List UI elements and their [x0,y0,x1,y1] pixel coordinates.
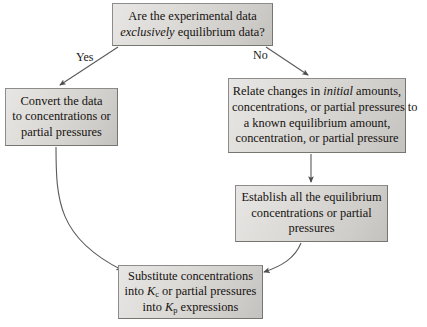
convert-line-1: Convert the data [9,94,114,110]
question-italic-word: exclusively [120,25,174,39]
question-line-1: Are the experimental data [116,9,269,25]
arrow-no-branch [266,47,308,75]
node-convert-box: Convert the data to concentrations or pa… [5,88,118,146]
establish-line-1: Establish all the equilibrium [239,190,384,206]
substitute-line-2: into Kc or partial pressures [122,284,259,300]
node-establish-box: Establish all the equilibrium concentrat… [235,185,388,242]
substitute-line-2-start: into [125,284,147,298]
convert-line-2: to concentrations or [9,109,114,125]
substitute-line-1: Substitute concentrations [122,269,259,285]
arrow-establish-to-substitute [264,243,301,272]
relate-line-1-start: Relate changes in [233,84,324,98]
substitute-line-2-end: or partial pressures [159,284,256,298]
convert-line-3: partial pressures [9,125,114,141]
branch-label-yes: Yes [76,50,93,65]
node-establish-text: Establish all the equilibrium concentrat… [236,190,387,237]
node-substitute-box: Substitute concentrations into Kc or par… [118,265,263,319]
establish-line-2: concentrations or partial [239,206,384,222]
relate-line-1-end: amounts, [353,84,401,98]
question-line-2: exclusively equilibrium data? [116,25,269,41]
flowchart-diagram: Are the experimental data exclusively eq… [0,0,427,327]
relate-line-3: a known equilibrium amount, [232,116,402,132]
kc-symbol: Kc [147,284,159,298]
substitute-line-3-end: expressions [177,300,238,314]
substitute-line-3: into Kp expressions [122,300,259,316]
arrow-convert-to-substitute [56,147,122,270]
relate-line-4: concentration, or partial pressure [232,131,402,147]
establish-line-3: pressures [239,221,384,237]
relate-line-1: Relate changes in initial amounts, [232,84,402,100]
node-substitute-text: Substitute concentrations into Kc or par… [119,269,262,316]
node-question-box: Are the experimental data exclusively eq… [112,3,273,46]
kp-letter: K [165,300,173,314]
node-question-text: Are the experimental data exclusively eq… [113,9,272,40]
kc-letter: K [147,284,155,298]
kp-symbol: Kp [165,300,177,314]
branch-label-no: No [253,48,268,63]
node-relate-box: Relate changes in initial amounts, conce… [228,78,406,153]
node-convert-text: Convert the data to concentrations or pa… [6,94,117,141]
question-line-2-rest: equilibrium data? [175,25,265,39]
relate-italic-word: initial [323,84,353,98]
relate-line-2: concentrations, or partial pressures to [232,100,402,116]
substitute-line-3-start: into [143,300,165,314]
node-relate-text: Relate changes in initial amounts, conce… [229,84,405,147]
